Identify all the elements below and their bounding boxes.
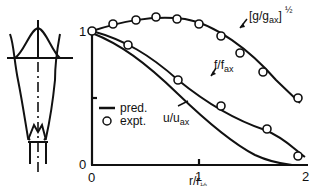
x-tick-2: 2 [302,169,309,184]
legend-pred: pred. [120,101,147,115]
axes [91,31,308,165]
legend-expt: expt. [120,114,146,128]
u-curve [92,33,292,165]
x-axis-label: r/r½ [189,174,207,186]
f-label: f/fax [214,58,234,74]
x-tick-0: 0 [88,170,95,185]
g-label: [g/gax]½ [249,5,293,25]
pred-curves [92,18,305,165]
y-tick-1: 1 [79,24,86,39]
g-curve [92,18,300,103]
expt-points [88,13,302,160]
u-label: u/uax [163,111,190,127]
inset-sketch [7,20,73,172]
chart-figure: 1 0 0 1 2 r/r½ [g/gax]½ f/fax [0,0,314,186]
legend: pred. expt. [99,101,147,128]
y-tick-0: 0 [79,157,86,172]
series-labels: [g/gax]½ f/fax u/uax [163,5,293,127]
